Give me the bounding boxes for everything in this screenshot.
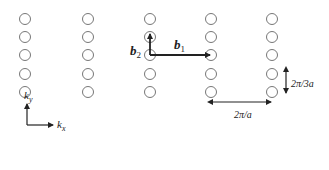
lattice-point	[83, 69, 94, 80]
vertical-spacing-label: 2π/3a	[291, 78, 314, 89]
horizontal-spacing-label: 2π/a	[234, 109, 252, 120]
lattice-point	[83, 14, 94, 25]
lattice-point	[267, 87, 278, 98]
lattice-point	[20, 32, 31, 43]
lattice-point	[267, 32, 278, 43]
ky-label: ky	[24, 89, 33, 104]
lattice-point	[206, 14, 217, 25]
lattice-point	[267, 69, 278, 80]
lattice-point	[267, 50, 278, 61]
reciprocal-lattice-diagram: b1 b2 2π/a 2π/3a ky kx	[0, 0, 329, 170]
b2-label: b2	[130, 43, 141, 60]
lattice-point	[20, 50, 31, 61]
lattice-point	[206, 87, 217, 98]
lattice-point	[145, 87, 156, 98]
lattice-points	[20, 14, 278, 98]
lattice-point	[145, 69, 156, 80]
lattice-point	[206, 32, 217, 43]
lattice-point	[83, 87, 94, 98]
b1-label: b1	[174, 37, 185, 54]
lattice-point	[267, 14, 278, 25]
kx-label: kx	[57, 118, 66, 133]
lattice-point	[145, 14, 156, 25]
lattice-point	[20, 14, 31, 25]
lattice-point	[83, 32, 94, 43]
lattice-point	[206, 69, 217, 80]
lattice-point	[20, 69, 31, 80]
lattice-point	[83, 50, 94, 61]
